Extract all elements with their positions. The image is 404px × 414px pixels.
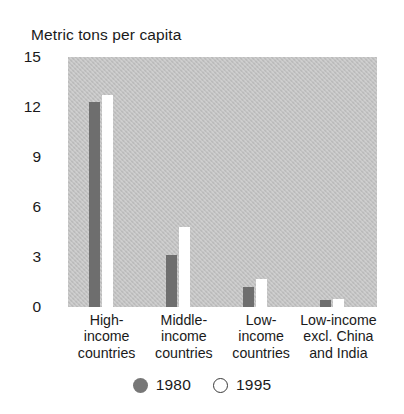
y-axis-tick-layer: 03691215 [68, 57, 377, 307]
y-axis-tick-6: 6 [1, 199, 41, 215]
x-axis-label-4: Low-incomeexcl. Chinaand India [292, 312, 385, 361]
chart-axis-title: Metric tons per capita [31, 26, 181, 44]
open-circle-icon [213, 378, 228, 393]
x-axis-category-labels: High-incomecountriesMiddle-incomecountri… [68, 312, 377, 370]
y-axis-tick-15: 15 [1, 49, 41, 65]
filled-circle-icon [133, 378, 148, 393]
legend-label-1980: 1980 [156, 376, 191, 394]
legend-item-1995[interactable]: 1995 [213, 376, 271, 394]
legend-item-1980[interactable]: 1980 [133, 376, 191, 394]
y-axis-tick-12: 12 [1, 99, 41, 115]
y-axis-tick-3: 3 [1, 249, 41, 265]
legend-label-1995: 1995 [236, 376, 271, 394]
bar-chart-figure: Metric tons per capita 03691215 High-inc… [0, 0, 404, 414]
y-axis-tick-9: 9 [1, 149, 41, 165]
y-axis-tick-0: 0 [1, 299, 41, 315]
chart-legend: 1980 1995 [0, 376, 404, 394]
